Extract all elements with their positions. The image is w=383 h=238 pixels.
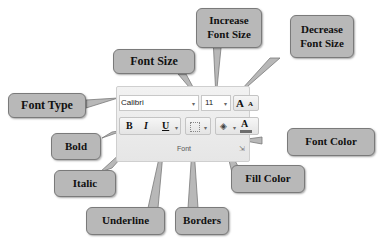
fill-color-dropdown-icon[interactable]: ▾ xyxy=(233,124,236,131)
font-size-value: 11 xyxy=(205,98,213,107)
callout-font-type: Font Type xyxy=(8,93,86,118)
text-style-buttons: B I U ▾ xyxy=(119,117,181,135)
borders-dropdown-icon[interactable]: ▾ xyxy=(204,124,207,131)
chevron-down-icon[interactable]: ▾ xyxy=(224,100,227,107)
callout-italic: Italic xyxy=(54,170,116,197)
color-buttons: ◈ ▾ A xyxy=(215,117,259,135)
callout-decrease-font-size: Decrease Font Size xyxy=(290,15,354,58)
font-ribbon-group: Calibri ▾ 11 ▾ A A B I U ▾ ▾ ◈ ▾ A Font … xyxy=(116,86,250,162)
underline-dropdown-icon[interactable]: ▾ xyxy=(175,124,178,131)
callout-bold: Bold xyxy=(51,133,101,160)
group-label: Font xyxy=(177,145,191,152)
italic-button[interactable]: I xyxy=(144,120,148,131)
callout-increase-font-size: Increase Font Size xyxy=(196,8,262,48)
callout-font-size: Font Size xyxy=(113,49,195,74)
callout-underline: Underline xyxy=(86,207,165,235)
borders-button[interactable]: ▾ xyxy=(185,117,211,135)
fill-color-icon[interactable]: ◈ xyxy=(220,121,227,131)
font-color-button[interactable]: A xyxy=(241,118,248,129)
font-size-combobox[interactable]: 11 ▾ xyxy=(201,95,231,111)
font-name-combobox[interactable]: Calibri ▾ xyxy=(119,95,199,111)
underline-button[interactable]: U xyxy=(162,120,169,131)
decrease-font-size-button[interactable]: A xyxy=(248,100,253,108)
callout-borders: Borders xyxy=(175,207,229,235)
font-color-bar xyxy=(240,130,252,133)
bold-button[interactable]: B xyxy=(126,120,133,131)
borders-icon xyxy=(190,122,200,132)
font-size-buttons: A A xyxy=(233,95,259,111)
increase-font-size-button[interactable]: A xyxy=(236,97,244,109)
callout-fill-color: Fill Color xyxy=(231,165,305,193)
dialog-launcher-icon[interactable]: ⇲ xyxy=(239,145,245,153)
callout-font-color: Font Color xyxy=(287,128,375,156)
font-name-value: Calibri xyxy=(121,98,144,107)
chevron-down-icon[interactable]: ▾ xyxy=(192,100,195,107)
